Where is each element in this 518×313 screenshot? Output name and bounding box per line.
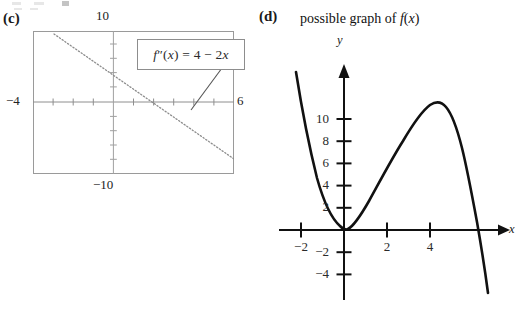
window-xmax-label: 6 <box>237 93 244 109</box>
d-y-axis-arrow <box>339 64 350 78</box>
panel-c: (c) <box>0 0 260 205</box>
window-ymax-label: 10 <box>96 8 109 24</box>
panel-d-plot <box>255 0 518 313</box>
formula-label: f″(x) = 4 − 2x <box>153 47 228 63</box>
x-axis-label: x <box>509 222 515 237</box>
y-tick-label-10: 10 <box>303 111 329 127</box>
x-tick-label-4: 4 <box>418 239 442 255</box>
x-tick-label-minus2: −2 <box>287 239 315 255</box>
formula-callout-box: f″(x) = 4 − 2x <box>137 39 245 70</box>
panel-c-letter: (c) <box>3 10 20 27</box>
x-tick-label-2: 2 <box>375 239 399 255</box>
formula-leader-line <box>178 66 238 126</box>
y-tick-label-minus4: −4 <box>299 266 329 282</box>
y-axis-label: y <box>337 33 343 48</box>
y-tick-label-4: 4 <box>303 177 329 193</box>
figure-root: (c) <box>0 0 518 313</box>
y-tick-label-8: 8 <box>303 133 329 149</box>
window-xmin-label: −4 <box>6 93 20 109</box>
panel-d: (d) possible graph of f(x) <box>255 0 518 313</box>
window-ymin-label: −10 <box>93 177 113 193</box>
y-tick-label-2: 2 <box>303 199 329 215</box>
y-tick-label-6: 6 <box>303 155 329 171</box>
